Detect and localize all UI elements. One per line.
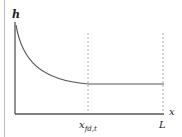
- x-fd-t-label: xfd,t: [79, 119, 97, 133]
- x-fd-t-label-sub: fd,t: [84, 125, 97, 133]
- length-label: L: [158, 119, 166, 130]
- decay-curve: [16, 25, 88, 84]
- heat-transfer-coefficient-diagram: h x xfd,t L: [0, 0, 182, 137]
- x-axis-label: x: [169, 106, 175, 117]
- y-axis-label: h: [12, 8, 20, 21]
